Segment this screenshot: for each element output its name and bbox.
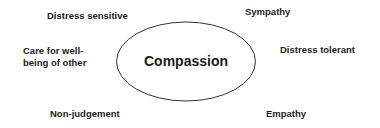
center-label-compassion: Compassion — [144, 53, 228, 69]
attribute-non-judgement: Non-judgement — [50, 108, 120, 120]
attribute-distress-sensitive: Distress sensitive — [47, 10, 128, 22]
attribute-care-line1: Care for well- — [23, 45, 86, 57]
attribute-empathy: Empathy — [266, 108, 306, 120]
attribute-care-line2: being of other — [23, 57, 86, 69]
attribute-sympathy: Sympathy — [245, 6, 290, 18]
attribute-distress-tolerant: Distress tolerant — [280, 44, 355, 56]
compassion-diagram: Compassion Distress sensitive Sympathy C… — [0, 0, 380, 128]
attribute-care-for-wellbeing: Care for well- being of other — [23, 45, 86, 69]
